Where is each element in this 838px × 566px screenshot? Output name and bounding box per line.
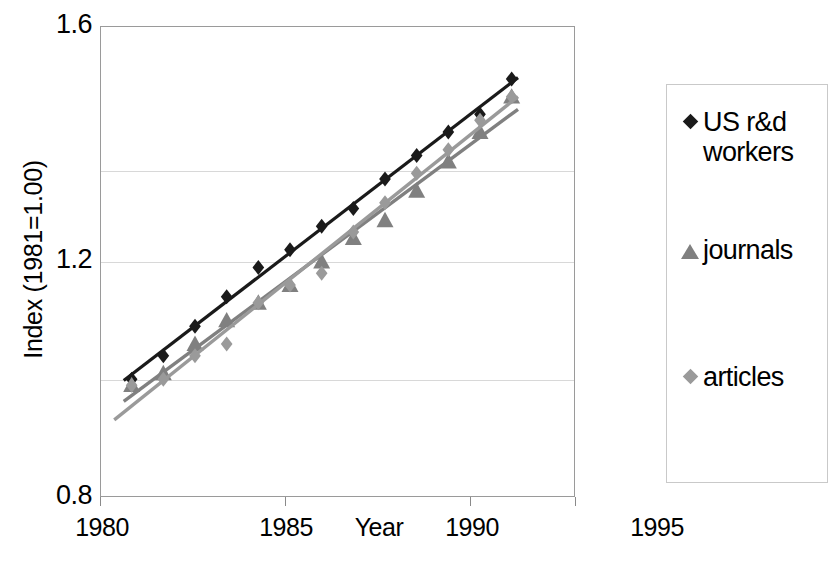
- data-point: [157, 348, 169, 363]
- legend-entry-articles[interactable]: articles: [677, 362, 784, 392]
- legend-entry-us-rd-workers[interactable]: US r&d workers: [677, 107, 793, 167]
- trendline-articles: [114, 97, 518, 420]
- diamond-black-icon: [677, 107, 703, 127]
- data-point: [347, 201, 359, 216]
- diamond-gray-icon: [677, 362, 703, 382]
- legend-label-articles: articles: [703, 362, 784, 392]
- data-point: [221, 336, 233, 351]
- legend: US r&d workers journals articles: [666, 84, 828, 483]
- triangle-gray-icon: [677, 235, 703, 259]
- data-point: [411, 166, 423, 181]
- data-point: [221, 289, 233, 304]
- legend-label-journals: journals: [703, 235, 793, 265]
- legend-label-us-rd-workers: US r&d workers: [703, 107, 793, 167]
- data-point: [411, 148, 423, 163]
- legend-entry-journals[interactable]: journals: [677, 235, 793, 265]
- chart-container: y 1.6 1.2 0.8 Index (1981=1.00) 1980 198…: [0, 0, 838, 566]
